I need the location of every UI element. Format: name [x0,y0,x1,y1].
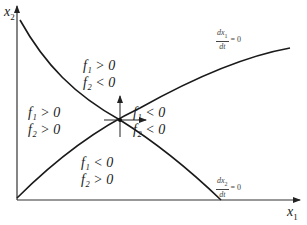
region-bottom-f2: f₂ > 0 [81,171,113,188]
frac-num: dx [217,28,225,37]
region-left-label: f₁ > 0 f₂ > 0 [28,104,60,138]
region-top-label: f₁ > 0 f₂ < 0 [83,57,115,91]
nullcline-dx2dt-label: dx2dt = 0 [216,176,241,199]
region-right-f2: f₂ < 0 [133,121,165,138]
x-axis-sub: 1 [293,212,298,222]
region-left-f1: f₁ > 0 [28,104,60,121]
region-top-f1: f₁ > 0 [83,57,115,74]
region-right-f1: f₁ < 0 [133,104,165,121]
nullcline-dx1dt-label: dx1dt = 0 [216,28,241,51]
frac-den: dt [219,42,225,51]
y-axis-label: x2 [4,4,15,25]
y-axis-sub: 2 [10,12,15,22]
equals-zero: = 0 [231,35,242,44]
region-left-f2: f₂ > 0 [28,121,60,138]
region-top-f2: f₂ < 0 [83,74,115,91]
frac-num-sub: 1 [225,33,228,39]
equilibrium-point [118,118,122,122]
region-right-label: f₁ < 0 f₂ < 0 [133,104,165,138]
region-bottom-f1: f₁ < 0 [81,154,113,171]
x-axis-label: x1 [287,204,298,225]
frac-num-sub: 2 [225,181,228,187]
equals-zero: = 0 [231,183,242,192]
frac-num: dx [217,176,225,185]
region-bottom-label: f₁ < 0 f₂ > 0 [81,154,113,188]
frac-den: dt [219,190,225,199]
